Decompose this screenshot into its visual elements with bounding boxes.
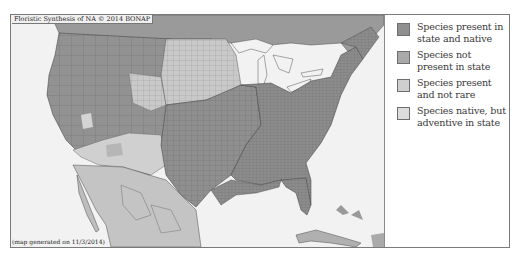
swatch-present-not-rare [397, 79, 410, 92]
map-figure: Floristic Synthesis of NA © 2014 BONAP (… [10, 14, 510, 248]
legend-label: Species present and not rare [417, 77, 509, 101]
swatch-native-adventive [397, 107, 410, 120]
legend-label: Species not present in state [417, 49, 509, 73]
swatch-present-native [397, 23, 410, 36]
legend-item-present-not-rare: Species present and not rare [389, 77, 509, 101]
legend-item-not-present: Species not present in state [389, 49, 509, 73]
map-legend: Species present in state and native Spec… [389, 21, 509, 133]
map-graphic [11, 15, 384, 247]
copyright-label: Floristic Synthesis of NA © 2014 BONAP [12, 15, 153, 24]
legend-label: Species present in state and native [417, 21, 509, 45]
legend-item-native-adventive: Species native, but adventive in state [389, 105, 509, 129]
distribution-map: Floristic Synthesis of NA © 2014 BONAP (… [11, 15, 385, 247]
legend-item-present-native: Species present in state and native [389, 21, 509, 45]
generated-date-label: (map generated on 11/3/2014) [12, 238, 105, 245]
legend-label: Species native, but adventive in state [417, 105, 509, 129]
swatch-not-present [397, 51, 410, 64]
